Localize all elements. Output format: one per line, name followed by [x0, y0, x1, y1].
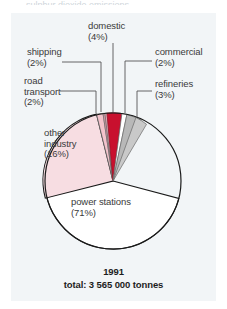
label-other-industry: other industry (16%): [44, 128, 76, 160]
label-power-stations: power stations (71%): [71, 197, 131, 218]
label-road-transport-line3: (2%): [24, 97, 61, 108]
footer-total: total: 3 565 000 tonnes: [11, 279, 216, 290]
footer-year: 1991: [11, 266, 216, 277]
label-other-industry-line1: other: [44, 128, 76, 139]
label-commercial: commercial (2%): [155, 47, 203, 68]
label-domestic: domestic (4%): [88, 21, 125, 42]
label-power-stations-line2: (71%): [71, 208, 131, 219]
leader-commercial: [125, 61, 152, 113]
leader-lines: [60, 43, 152, 117]
label-power-stations-line1: power stations: [71, 197, 131, 208]
label-shipping-line2: (2%): [27, 58, 62, 69]
leader-refineries: [137, 91, 152, 117]
label-road-transport-line1: road: [24, 76, 61, 87]
leader-road-transport: [60, 91, 96, 113]
label-commercial-line2: (2%): [155, 58, 203, 69]
label-domestic-line1: domestic: [88, 21, 125, 32]
chart-page: sulphur dioxide emissions: [0, 0, 227, 309]
label-other-industry-line3: (16%): [44, 149, 76, 160]
label-refineries-line2: (3%): [155, 90, 193, 101]
label-road-transport: road transport (2%): [24, 76, 61, 108]
label-commercial-line1: commercial: [155, 47, 203, 58]
leader-shipping: [62, 62, 101, 112]
label-shipping: shipping (2%): [27, 47, 62, 68]
label-shipping-line1: shipping: [27, 47, 62, 58]
label-refineries-line1: refineries: [155, 79, 193, 90]
label-domestic-line2: (4%): [88, 32, 125, 43]
label-refineries: refineries (3%): [155, 79, 193, 100]
